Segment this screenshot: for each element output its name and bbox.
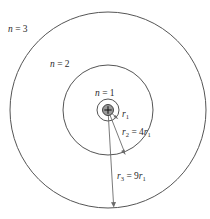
radius-label-r2-subscript: 2	[126, 131, 129, 138]
radius-label-r3-subscript: 3	[121, 175, 124, 182]
radius-label-r3-base-subscript: 1	[143, 175, 146, 182]
radius-arrow-r3	[108, 110, 116, 208]
orbit-label-n2-value: 2	[65, 59, 70, 69]
radius-label-r3: r3 = 9r1	[117, 172, 146, 182]
orbit-label-n2: n = 2	[50, 60, 70, 70]
orbit-label-n1-value: 1	[110, 88, 115, 98]
orbit-label-n1: n = 1	[95, 89, 115, 99]
radius-label-r1-subscript: 1	[126, 113, 129, 120]
arrow-head-r2	[121, 150, 126, 155]
radius-label-r2-base-subscript: 1	[148, 131, 151, 138]
radius-label-r3-base-symbol: r	[139, 171, 143, 181]
orbit-label-n3-value: 3	[23, 24, 28, 34]
bohr-model-diagram: n = 3 n = 2 n = 1 r1 r2 = 4r1 r3 = 9r1	[0, 0, 210, 219]
arrow-head-r3	[111, 202, 116, 208]
radius-label-r2: r2 = 4r1	[122, 128, 151, 138]
nucleus	[103, 105, 114, 116]
radius-label-r1: r1	[122, 110, 129, 120]
radius-label-r2-base-symbol: r	[144, 127, 148, 137]
orbit-label-n3: n = 3	[8, 25, 28, 35]
orbit-canvas	[0, 0, 210, 219]
